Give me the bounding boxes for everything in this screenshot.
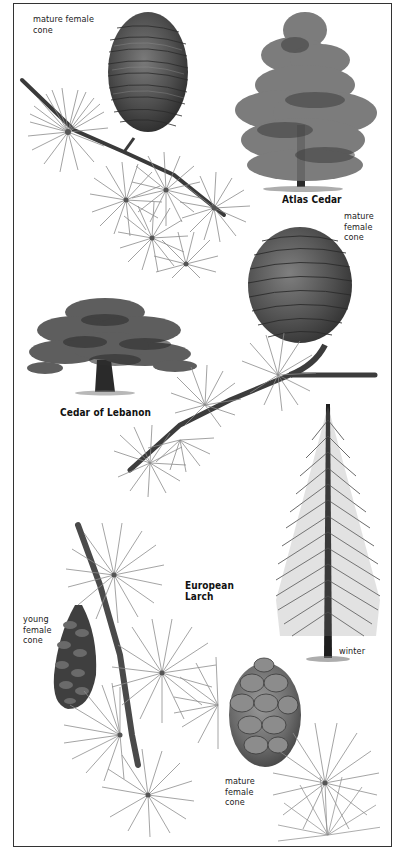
larch-mature-cone-icon [229,658,301,767]
lebanon-cone-icon [248,227,352,343]
european-larch-shoot-illustration [20,505,380,845]
larch-young-cone-icon [54,605,96,709]
atlas-cedar-label: Atlas Cedar [282,194,342,205]
atlas-cedar-tree-illustration [225,5,385,195]
atlas-cone-icon [108,12,188,132]
label-line: mature [344,211,374,222]
